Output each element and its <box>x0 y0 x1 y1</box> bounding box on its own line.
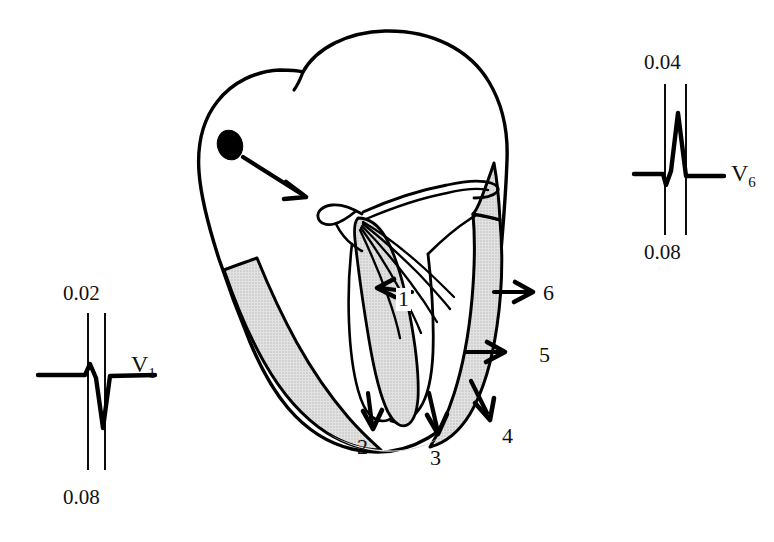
ecg-trace-v6-group <box>634 84 724 235</box>
ecg-trace-v1-group <box>38 313 155 470</box>
v1-time-label-bottom: 0.08 <box>63 487 100 508</box>
depolarization-step-label-2: 2 <box>357 436 368 458</box>
heart-outline-group <box>199 31 508 452</box>
v6-time-label-top: 0.04 <box>644 52 681 73</box>
v1-lead-subscript: 1 <box>148 365 156 381</box>
depolarization-step-label-6: 6 <box>543 282 554 304</box>
v6-lead-label: V6 <box>731 161 756 190</box>
depolarization-step-label-4: 4 <box>502 425 513 447</box>
v6-qrs-waveform <box>634 113 724 185</box>
cardiac-depolarization-figure <box>0 0 774 542</box>
v1-lead-letter: V <box>131 351 148 377</box>
v6-lead-subscript: 6 <box>748 174 756 190</box>
figure-root: 0.02 0.08 V1 0.04 0.08 V6 1 2 3 4 5 6 <box>0 0 774 542</box>
v1-time-label-top: 0.02 <box>63 283 100 304</box>
depolarization-step-label-5: 5 <box>539 344 550 366</box>
depolarization-step-label-3: 3 <box>430 447 441 469</box>
v6-time-label-bottom: 0.08 <box>644 242 681 263</box>
depolarization-step-label-1: 1 <box>396 288 411 311</box>
v6-lead-letter: V <box>731 160 748 186</box>
v1-lead-label: V1 <box>131 352 156 381</box>
